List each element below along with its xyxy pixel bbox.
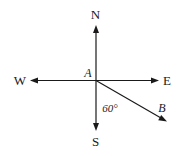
label-west: W — [14, 73, 27, 88]
label-north: N — [91, 7, 101, 22]
label-south: S — [92, 134, 99, 149]
label-point-b: B — [158, 101, 166, 115]
east-arrow — [96, 78, 159, 84]
ray-ab — [96, 81, 167, 122]
label-origin-a: A — [83, 66, 92, 80]
arrowhead-east-icon — [151, 78, 159, 84]
arrowhead-west-icon — [30, 78, 38, 84]
label-east: E — [163, 73, 171, 88]
north-arrow — [93, 25, 99, 81]
south-arrow — [93, 81, 99, 132]
arrowhead-b-icon — [158, 115, 167, 121]
compass-diagram: N S W E A B 60° — [0, 0, 181, 156]
arrowhead-south-icon — [93, 123, 99, 131]
arrowhead-north-icon — [93, 25, 99, 33]
label-angle: 60° — [102, 102, 118, 114]
